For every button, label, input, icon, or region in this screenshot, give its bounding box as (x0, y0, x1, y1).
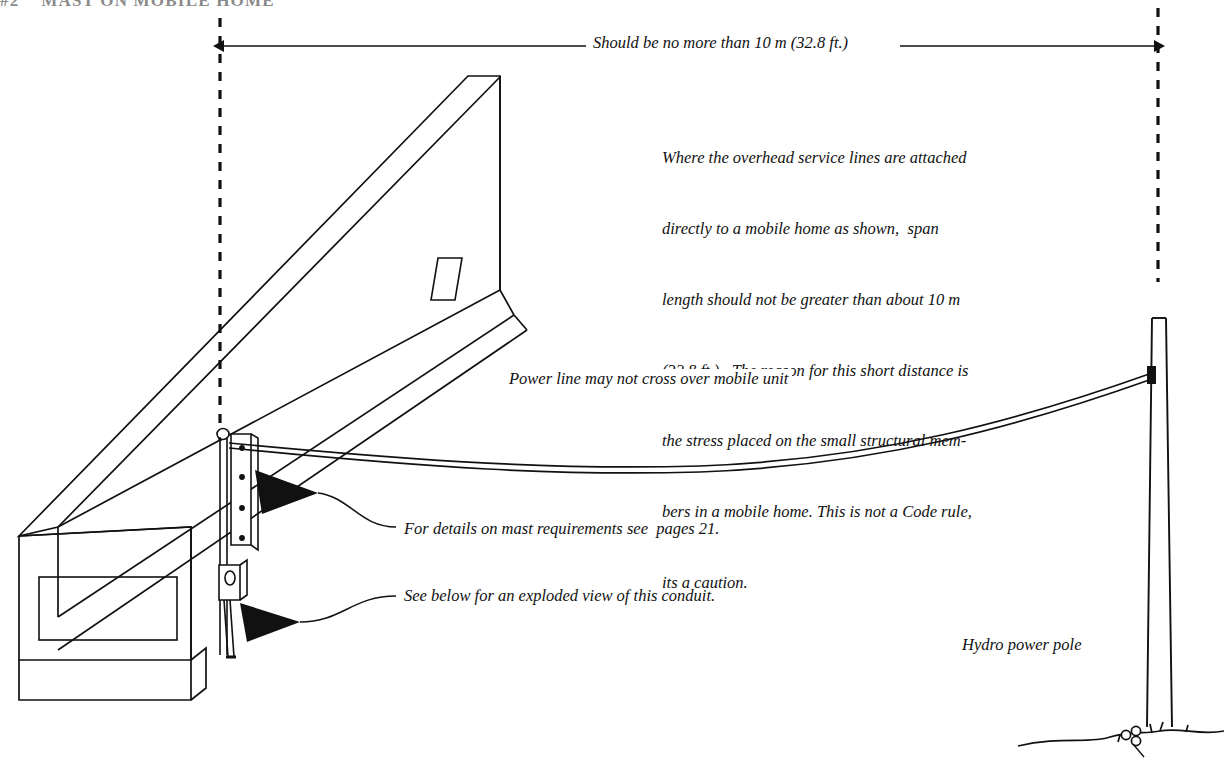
mobile-home-skirt-band (19, 660, 191, 700)
ground-tuft-1 (1118, 735, 1120, 742)
mast-strap-bolt (240, 475, 244, 479)
hydro-power-pole (1147, 318, 1172, 727)
ground-tuft-3 (1160, 722, 1163, 731)
caption-line: length should not be greater than about … (662, 288, 1120, 312)
leader-group (240, 470, 396, 642)
mobile-home-far-gable2 (514, 315, 527, 330)
ground-group (1018, 722, 1224, 757)
mobile-home-side-window (431, 258, 462, 300)
mast-strap-bolt (240, 506, 244, 510)
leader-arrowhead-conduit (240, 603, 300, 642)
meter-dial-icon (225, 571, 235, 585)
leader-line-conduit (300, 596, 396, 622)
shrub-icon (1121, 726, 1144, 757)
diagram-page: #2 MAST ON MOBILE HOME (0, 0, 1224, 773)
ground-line (1018, 730, 1224, 746)
caption-line: directly to a mobile home as shown, span (662, 217, 1120, 241)
caption-line: bers in a mobile home. This is not a Cod… (662, 500, 1120, 524)
meter-socket-box-side (240, 560, 247, 600)
caption-line: its a caution. (662, 571, 1120, 595)
conduit-detail-note: See below for an exploded view of this c… (404, 586, 715, 606)
mobile-home-roof (19, 76, 500, 536)
caption-line: Where the overhead service lines are att… (662, 146, 1120, 170)
leader-arrowhead-mast (255, 470, 318, 514)
mobile-home-end-window (39, 577, 177, 640)
hydro-pole-label: Hydro power pole (962, 635, 1081, 655)
mobile-home-skirt-band-right (191, 648, 206, 700)
caption-line: the stress placed on the small structura… (662, 429, 1120, 453)
power-line-note: Power line may not cross over mobile uni… (505, 369, 792, 389)
mast-detail-note: For details on mast requirements see pag… (404, 519, 719, 539)
mobile-home (19, 76, 527, 700)
leader-line-mast (318, 493, 396, 527)
pole-right-edge (1166, 318, 1172, 727)
mobile-home-far-gable (500, 290, 514, 315)
span-dimension-label: Should be no more than 10 m (32.8 ft.) (586, 33, 855, 53)
mobile-home-end-face-top-edge (19, 527, 191, 536)
service-conduit-2 (230, 600, 234, 657)
pole-insulator-bracket (1147, 366, 1156, 384)
mast-strap-bolt (240, 536, 244, 540)
